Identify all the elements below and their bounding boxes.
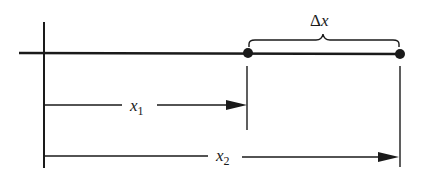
x1-arrowhead-icon: [226, 100, 247, 110]
displacement-diagram: Δx x1 x2: [0, 0, 430, 177]
x1-label: x1: [129, 96, 144, 118]
number-line: [19, 53, 400, 54]
delta-x-brace: [249, 34, 399, 47]
x2-label: x2: [215, 146, 230, 168]
x2-arrowhead-icon: [378, 152, 399, 162]
position-2-point: [395, 49, 405, 59]
delta-x-label: Δx: [310, 11, 329, 30]
position-1-point: [243, 48, 253, 58]
